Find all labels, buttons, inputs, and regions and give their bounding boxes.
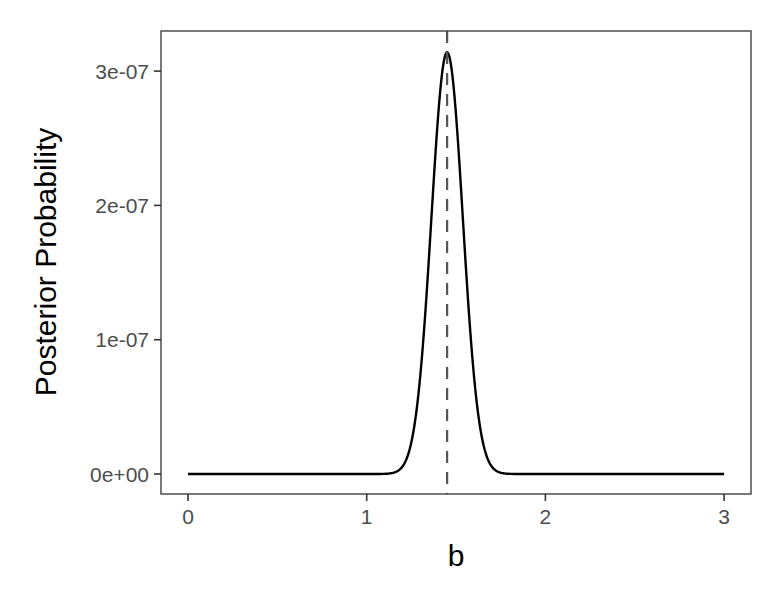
y-tick-label: 2e-07 — [95, 194, 149, 217]
x-tick-label: 3 — [718, 505, 730, 528]
x-tick-label: 2 — [540, 505, 552, 528]
y-axis: 0e+001e-072e-073e-07 — [90, 60, 161, 486]
y-tick-label: 1e-07 — [95, 328, 149, 351]
y-tick-label: 3e-07 — [95, 60, 149, 83]
x-axis-title: b — [448, 539, 465, 572]
y-tick-label: 0e+00 — [90, 463, 149, 486]
x-axis: 0123 — [182, 494, 730, 528]
x-tick-label: 0 — [182, 505, 194, 528]
posterior-chart: 0123 0e+001e-072e-073e-07 b Posterior Pr… — [0, 0, 781, 592]
y-axis-title: Posterior Probability — [29, 128, 62, 396]
x-tick-label: 1 — [361, 505, 373, 528]
